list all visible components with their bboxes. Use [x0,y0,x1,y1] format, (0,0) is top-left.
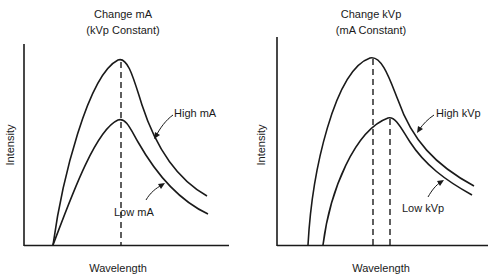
high-ma-label: High mA [174,107,217,119]
right-chart-title: Change kVp [341,8,402,20]
right-chart-subtitle: (mA Constant) [336,24,406,36]
left-chart-title: Change mA [94,8,153,20]
left-x-label: Wavelength [89,262,147,274]
low-kvp-curve [323,118,472,245]
high-kvp-arrowhead-icon [417,126,423,133]
right-y-label: Intensity [255,124,267,165]
left-chart: Change mA (kVp Constant) Intensity Wavel… [4,8,229,274]
high-ma-arrow-icon [156,115,173,136]
low-ma-label: Low mA [114,206,154,218]
high-kvp-curve [308,58,474,245]
right-x-label: Wavelength [352,262,410,274]
low-ma-arrowhead-icon [158,183,165,189]
left-chart-subtitle: (kVp Constant) [86,24,159,36]
left-y-label: Intensity [4,124,16,165]
low-kvp-label: Low kVp [402,202,444,214]
high-kvp-arrow-icon [419,115,434,130]
low-kvp-arrowhead-icon [437,180,444,186]
low-ma-arrow-icon [146,185,162,200]
high-kvp-label: High kVp [436,107,481,119]
diagram-canvas: Change mA (kVp Constant) Intensity Wavel… [0,0,495,277]
right-chart: Change kVp (mA Constant) Intensity Wavel… [255,8,488,274]
